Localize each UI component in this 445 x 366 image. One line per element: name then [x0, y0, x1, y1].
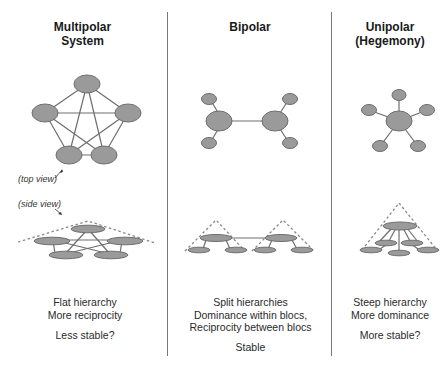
bipolar-minor-node — [283, 94, 298, 105]
multipolar-description: Flat hierarchy More reciprocity Less sta… — [25, 296, 145, 342]
bipolar-side-minor — [188, 247, 210, 253]
unipolar-description: Steep hierarchy More dominance More stab… — [340, 296, 440, 342]
bipolar-minor-node — [202, 138, 217, 149]
multipolar-side-node — [107, 237, 143, 245]
multipolar-side-node — [34, 237, 70, 245]
unipolar-side-minor — [360, 247, 382, 253]
bipolar-minor-node — [283, 138, 298, 149]
unipolar-side-minor — [375, 240, 397, 246]
bipolar-major-node — [262, 111, 288, 131]
unipolar-side-minor — [417, 247, 439, 253]
multipolar-side-node — [71, 225, 105, 233]
unipolar-minor-node — [373, 141, 388, 152]
multipolar-top-view — [32, 75, 141, 164]
unipolar-minor-node — [420, 105, 435, 116]
bipolar-top-view — [202, 94, 298, 149]
unipolar-desc-line2: More dominance — [340, 309, 440, 322]
bipolar-side-major — [200, 235, 232, 242]
bipolar-side-minor — [291, 247, 313, 253]
unipolar-minor-node — [411, 141, 426, 152]
multipolar-node — [91, 146, 117, 164]
multipolar-side-view — [18, 221, 155, 259]
unipolar-minor-node — [362, 105, 377, 116]
unipolar-side-view — [360, 203, 439, 256]
unipolar-side-hegemon — [383, 222, 417, 230]
bipolar-side-major — [265, 235, 297, 242]
multipolar-node — [74, 75, 100, 93]
unipolar-desc-line1: Steep hierarchy — [340, 296, 440, 309]
bipolar-minor-node — [202, 94, 217, 105]
multipolar-verdict: Less stable? — [25, 329, 145, 342]
bipolar-side-view — [185, 220, 313, 253]
unipolar-minor-node — [392, 90, 406, 101]
multipolar-side-node — [94, 251, 128, 259]
top-view-label: (top view) — [18, 174, 57, 184]
bipolar-major-node — [206, 111, 232, 131]
bipolar-verdict: Stable — [178, 341, 323, 354]
multipolar-desc-line2: More reciprocity — [25, 309, 145, 322]
multipolar-node — [32, 104, 58, 122]
bipolar-desc-line1: Split hierarchies — [178, 296, 323, 309]
unipolar-hegemon-node — [386, 111, 412, 131]
bipolar-desc-line3: Reciprocity between blocs — [178, 321, 323, 334]
unipolar-verdict: More stable? — [340, 329, 440, 342]
multipolar-side-node — [49, 251, 83, 259]
unipolar-side-minor — [388, 250, 410, 256]
multipolar-desc-line1: Flat hierarchy — [25, 296, 145, 309]
multipolar-node — [115, 104, 141, 122]
side-view-label: (side view) — [18, 199, 61, 209]
bipolar-side-minor — [225, 247, 247, 253]
unipolar-top-view — [362, 90, 435, 152]
bipolar-side-minor — [254, 247, 276, 253]
bipolar-description: Split hierarchies Dominance within blocs… — [178, 296, 323, 353]
bipolar-desc-line2: Dominance within blocs, — [178, 309, 323, 322]
unipolar-side-minor — [401, 240, 423, 246]
multipolar-node — [56, 146, 82, 164]
